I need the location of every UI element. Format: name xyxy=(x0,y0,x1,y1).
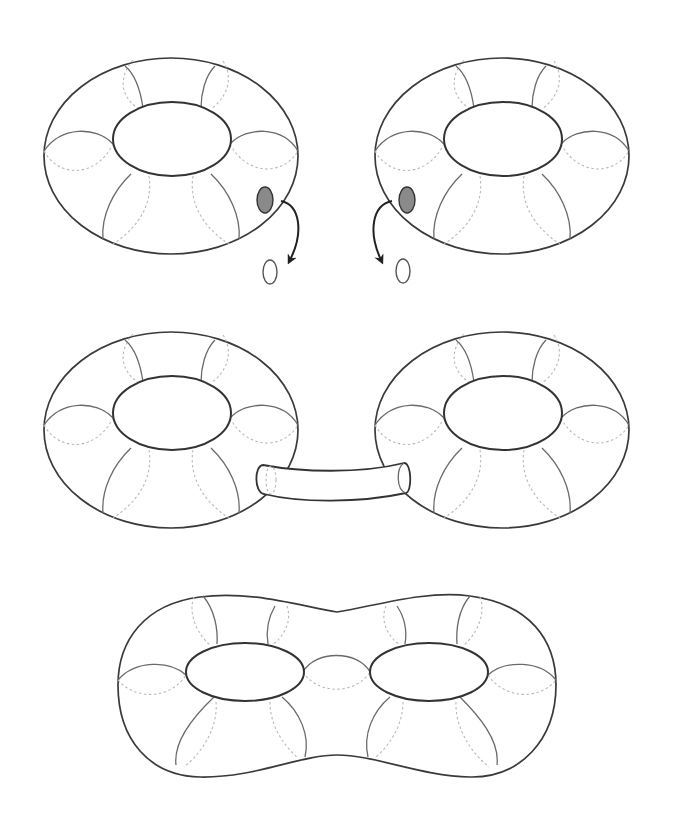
step-1-group: Two tori with a disk removed from each xyxy=(44,58,629,284)
left-torus-top xyxy=(44,58,298,284)
step-3-group: Resulting double torus (genus 2) xyxy=(118,595,556,777)
double-torus xyxy=(118,595,556,777)
step-2-group: Tori joined by a connecting tube xyxy=(44,332,629,528)
right-torus-middle xyxy=(375,332,629,528)
left-torus-middle xyxy=(44,332,298,528)
disk-boundary-right xyxy=(396,259,410,283)
diagram-canvas: Connected sum of two tori forming a genu… xyxy=(0,0,673,826)
right-torus-top xyxy=(373,58,629,283)
hole-right xyxy=(370,643,488,701)
disk-boundary-left xyxy=(263,260,277,284)
hole-left xyxy=(186,643,304,701)
removed-disk-right xyxy=(399,187,415,213)
arrow-left xyxy=(281,201,298,260)
arrow-right xyxy=(373,201,392,260)
removed-disk-left xyxy=(257,187,273,213)
connecting-tube xyxy=(256,463,410,501)
